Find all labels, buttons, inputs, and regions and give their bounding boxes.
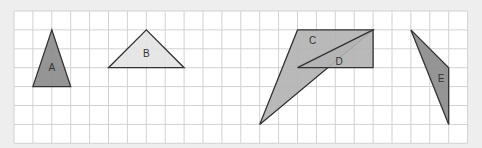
triangle-label: D	[335, 56, 342, 67]
triangle-label: E	[438, 73, 445, 84]
triangle-label: B	[143, 48, 150, 59]
triangle-label: C	[309, 35, 316, 46]
triangle-label: A	[48, 62, 55, 73]
triangle-grid-diagram: ABCDE	[0, 0, 482, 148]
grid	[14, 11, 468, 143]
